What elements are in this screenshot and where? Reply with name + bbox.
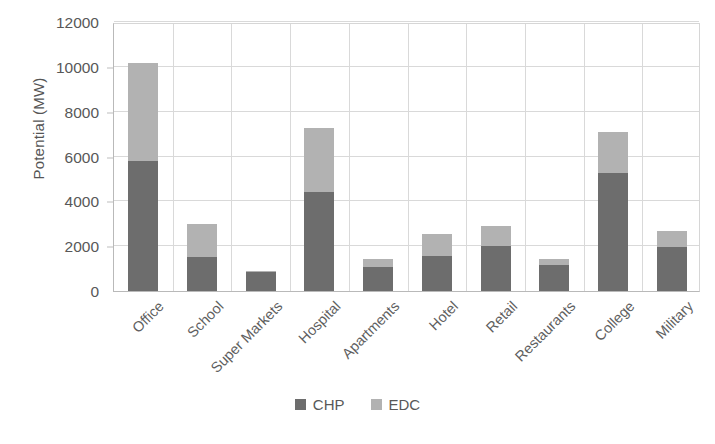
y-tick-label: 10000 — [0, 59, 107, 77]
bar-segment-edc — [187, 224, 217, 258]
gridline-vertical — [290, 24, 291, 291]
x-axis-category-labels: OfficeSchoolSuper MarketsHospitalApartme… — [113, 294, 700, 384]
plot-area — [113, 23, 700, 292]
gridline-vertical — [231, 24, 232, 291]
bar-segment-edc — [422, 234, 452, 256]
y-tick-label: 12000 — [0, 14, 107, 32]
legend-label-edc: EDC — [389, 396, 421, 413]
gridline-vertical — [642, 24, 643, 291]
bar-segment-chp — [598, 173, 628, 291]
chart-legend: CHPEDC — [0, 396, 715, 413]
y-tick-label: 6000 — [0, 149, 107, 167]
x-axis-label-restaurants: Restaurants — [512, 298, 579, 365]
bar-segment-edc — [481, 226, 511, 246]
x-axis-label-college: College — [591, 298, 637, 344]
gridline-horizontal — [114, 21, 699, 22]
x-axis-label-school: School — [184, 298, 227, 341]
bar-column — [304, 128, 334, 291]
x-axis-label-hotel: Hotel — [426, 298, 461, 333]
legend-swatch-edc — [371, 399, 382, 410]
bar-column — [128, 63, 158, 291]
gridline-horizontal — [114, 111, 699, 112]
x-axis-label-office: Office — [129, 298, 167, 336]
bar-column — [363, 259, 393, 291]
bar-column — [246, 271, 276, 291]
bar-segment-chp — [187, 257, 217, 291]
y-axis-ticks: 120001000080006000400020000 — [0, 23, 107, 292]
bar-segment-chp — [246, 272, 276, 291]
bar-segment-edc — [539, 259, 569, 266]
bar-column — [187, 224, 217, 291]
bar-segment-edc — [304, 128, 334, 192]
y-tick-label: 0 — [0, 283, 107, 301]
y-tick-label: 2000 — [0, 238, 107, 256]
gridline-vertical — [466, 24, 467, 291]
bar-segment-edc — [363, 259, 393, 267]
legend-swatch-chp — [295, 399, 306, 410]
bar-column — [422, 234, 452, 291]
bar-segment-chp — [304, 192, 334, 291]
bar-column — [481, 226, 511, 291]
gridline-vertical — [525, 24, 526, 291]
legend-item-edc: EDC — [371, 396, 421, 413]
bar-segment-chp — [481, 246, 511, 291]
bar-segment-chp — [539, 265, 569, 291]
bar-segment-edc — [128, 63, 158, 161]
x-axis-label-retail: Retail — [482, 298, 520, 336]
bar-column — [657, 231, 687, 291]
gridline-horizontal — [114, 66, 699, 67]
bar-column — [598, 132, 628, 291]
stacked-bar-chart: Potential (MW) 1200010000800060004000200… — [0, 0, 715, 444]
bar-segment-edc — [657, 231, 687, 247]
gridline-vertical — [408, 24, 409, 291]
legend-label-chp: CHP — [313, 396, 345, 413]
y-tick-label: 4000 — [0, 193, 107, 211]
legend-item-chp: CHP — [295, 396, 345, 413]
bar-segment-edc — [598, 132, 628, 173]
y-tick-label: 8000 — [0, 104, 107, 122]
bar-segment-chp — [363, 267, 393, 291]
gridline-vertical — [349, 24, 350, 291]
bar-segment-chp — [657, 247, 687, 291]
gridline-vertical — [173, 24, 174, 291]
gridline-vertical — [584, 24, 585, 291]
bar-segment-chp — [128, 161, 158, 291]
x-axis-label-hospital: Hospital — [296, 298, 344, 346]
x-axis-label-apartments: Apartments — [339, 298, 403, 362]
bar-segment-chp — [422, 256, 452, 291]
bar-column — [539, 259, 569, 291]
x-axis-label-military: Military — [652, 298, 696, 342]
